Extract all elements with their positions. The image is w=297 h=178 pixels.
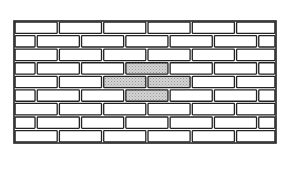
brick xyxy=(104,22,146,33)
brick xyxy=(37,90,79,101)
brick xyxy=(214,90,256,101)
brick xyxy=(82,117,124,128)
brick xyxy=(214,63,256,74)
brick xyxy=(82,63,124,74)
highlighted-brick xyxy=(126,90,168,101)
brick xyxy=(104,103,146,114)
highlighted-brick xyxy=(126,63,168,74)
brick xyxy=(104,49,146,60)
brick xyxy=(59,131,101,142)
brick xyxy=(148,103,190,114)
brick xyxy=(59,103,101,114)
brick xyxy=(148,131,190,142)
brick xyxy=(59,76,101,87)
brick xyxy=(126,36,168,47)
brick xyxy=(126,117,168,128)
brick-wall-diagram xyxy=(0,0,297,178)
brick xyxy=(82,36,124,47)
highlighted-brick xyxy=(104,76,146,87)
brick xyxy=(37,36,79,47)
brick xyxy=(170,63,212,74)
brick xyxy=(15,63,35,74)
brick xyxy=(148,49,190,60)
brick xyxy=(37,63,79,74)
brick xyxy=(237,76,275,87)
brick xyxy=(104,131,146,142)
brick xyxy=(192,49,234,60)
brick xyxy=(259,117,275,128)
brick xyxy=(15,49,57,60)
brick xyxy=(214,36,256,47)
brick xyxy=(15,103,57,114)
brick xyxy=(192,103,234,114)
brick xyxy=(237,131,275,142)
brick xyxy=(15,131,57,142)
brick xyxy=(59,22,101,33)
bricks-group xyxy=(15,22,275,142)
brick xyxy=(148,22,190,33)
brick xyxy=(192,76,234,87)
brick xyxy=(237,49,275,60)
brick xyxy=(15,117,35,128)
brick xyxy=(259,90,275,101)
brick xyxy=(37,117,79,128)
brick xyxy=(170,36,212,47)
brick xyxy=(170,117,212,128)
brick xyxy=(237,103,275,114)
brick xyxy=(237,22,275,33)
brick xyxy=(259,63,275,74)
brick xyxy=(59,49,101,60)
brick xyxy=(170,90,212,101)
brick xyxy=(192,131,234,142)
brick xyxy=(214,117,256,128)
brick xyxy=(15,36,35,47)
brick xyxy=(192,22,234,33)
brick xyxy=(15,22,57,33)
highlighted-brick xyxy=(148,76,190,87)
brick xyxy=(259,36,275,47)
brick xyxy=(15,76,57,87)
brick xyxy=(15,90,35,101)
brick xyxy=(82,90,124,101)
